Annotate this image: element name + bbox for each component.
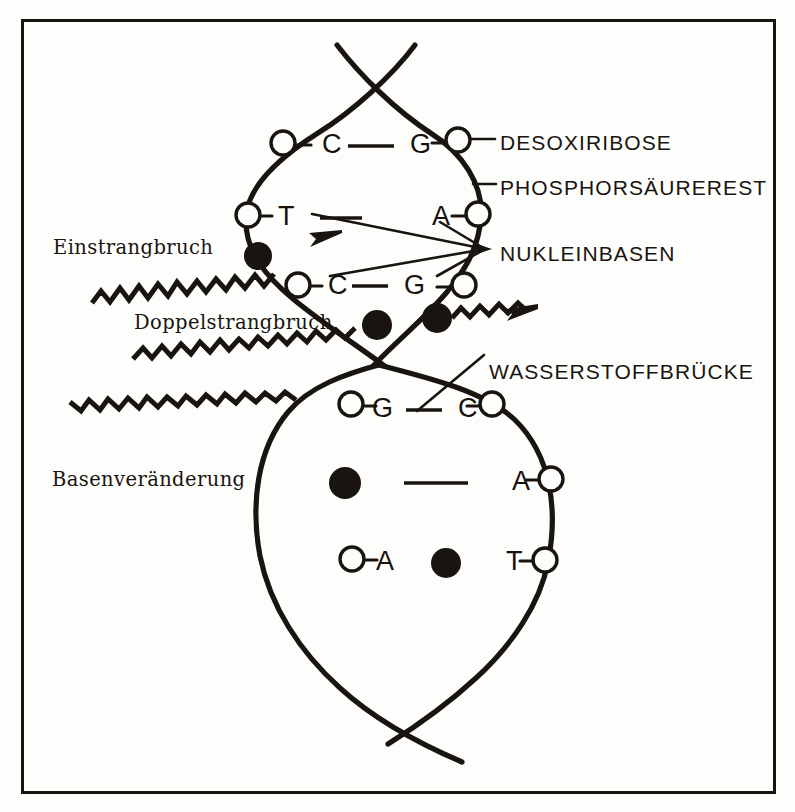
base-letter-upper-c-left-2: C bbox=[328, 272, 348, 299]
sugar-node-upper-right-2 bbox=[466, 202, 490, 226]
base-letter-upper-g-right-2: G bbox=[404, 272, 425, 299]
double-strand-break-dot-right bbox=[422, 303, 452, 333]
base-letter-upper-g-right: G bbox=[410, 131, 431, 158]
sugar-node-upper-left-3 bbox=[286, 273, 310, 297]
callout-desoxiribose: DESOXIRIBOSE bbox=[500, 132, 672, 153]
callout-einstrangbruch: Einstrangbruch bbox=[53, 238, 213, 258]
base-letter-lower-a-left: A bbox=[376, 548, 394, 575]
sugar-node-upper-left-2 bbox=[236, 203, 260, 227]
radiation-arrowheads bbox=[506, 304, 538, 321]
leader-arrowhead-nukleinbasen bbox=[474, 243, 492, 255]
double-strand-break-dot-left bbox=[362, 310, 392, 340]
dna-damage-diagram bbox=[0, 0, 795, 812]
callout-wasserstoffbruecke: WASSERSTOFFBRÜCKE bbox=[489, 361, 754, 382]
sugar-node-upper-right-1 bbox=[446, 128, 470, 152]
base-letter-lower-t-right: T bbox=[506, 548, 523, 575]
base-change-dot-center bbox=[431, 548, 461, 578]
sugar-node-lower-right-2 bbox=[539, 467, 563, 491]
base-letter-lower-c-right: C bbox=[458, 395, 478, 422]
base-letter-upper-a-right: A bbox=[432, 203, 450, 230]
base-letter-upper-t-left: T bbox=[278, 203, 295, 230]
base-letter-lower-g-left: G bbox=[372, 395, 393, 422]
sugar-node-lower-right-1 bbox=[480, 392, 504, 416]
base-connector-ticks bbox=[260, 143, 539, 561]
figure-root: C G T A C G G C A A T DESOXIRIBOSE PHOSP… bbox=[0, 0, 795, 812]
single-strand-break-dot bbox=[244, 242, 272, 270]
sugar-node-lower-left-1 bbox=[339, 392, 363, 416]
callout-doppelstrangbruch: Doppelstrangbruch bbox=[134, 313, 333, 333]
sugar-node-lower-left-2 bbox=[340, 547, 364, 571]
radiation-track-single-strand-break bbox=[92, 274, 274, 303]
base-change-dot-left bbox=[329, 467, 361, 499]
callout-phosphorsaeurerest: PHOSPHORSÄUREREST bbox=[500, 177, 767, 198]
sugar-node-lower-right-3 bbox=[533, 548, 557, 572]
nukleinbasen-arrowhead bbox=[474, 243, 492, 255]
base-letter-upper-c-left: C bbox=[322, 131, 342, 158]
callout-nukleinbasen: NUKLEINBASEN bbox=[500, 243, 675, 264]
single-strand-track-arrowhead bbox=[309, 230, 342, 247]
base-letter-lower-a-right: A bbox=[512, 468, 530, 495]
radiation-track-base-change bbox=[70, 392, 296, 411]
radiation-arrowhead-double-strand-break bbox=[506, 304, 538, 321]
radiation-arrowhead-single-strand-break bbox=[309, 230, 342, 247]
callout-basenveraenderung: Basenveränderung bbox=[52, 470, 245, 490]
sugar-node-upper-right-3 bbox=[452, 273, 476, 297]
sugar-node-upper-left-1 bbox=[271, 131, 295, 155]
